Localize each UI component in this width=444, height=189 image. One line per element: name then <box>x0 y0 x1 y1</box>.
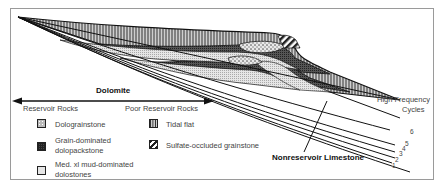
legend-grain-dominated-l1: Grain-dominated <box>55 136 111 145</box>
dolograinstone-swatch <box>37 119 46 128</box>
legend-grain-dominated-l2: dolopackstone <box>55 146 103 155</box>
cycle-number-5: 5 <box>405 139 409 148</box>
grain-dominated-swatch <box>37 142 46 151</box>
nonreservoir-pointer <box>304 101 327 152</box>
legend-mud-dominated-l2: dolostones <box>55 170 91 179</box>
tidal-flat-swatch <box>149 119 158 128</box>
legend-mud-dominated-l1: Med. xl mud-dominated <box>55 160 133 169</box>
dolomite-label: Dolomite <box>96 86 130 95</box>
poor-reservoir-rocks-label: Poor Reservoir Rocks <box>125 104 198 113</box>
sulfate-swatch <box>149 140 158 149</box>
high-frequency-label: High Frequency <box>377 95 430 104</box>
mud-dominated-swatch <box>37 166 46 175</box>
nonreservoir-limestone-label: Nonreservoir Limestone <box>272 153 364 162</box>
legend-dolograinstone: Dolograinstone <box>55 120 105 129</box>
cycles-label: Cycles <box>402 105 425 114</box>
reservoir-rocks-label: Reservoir Rocks <box>23 104 78 113</box>
cycle-number-6: 6 <box>410 127 414 136</box>
legend-sulfate: Sulfate-occluded grainstone <box>166 141 259 150</box>
legend-tidal-flat: Tidal flat <box>166 120 194 129</box>
